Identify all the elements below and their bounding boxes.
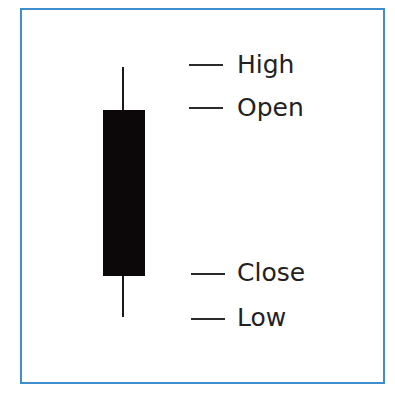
high-tick xyxy=(189,64,223,66)
lower-wick xyxy=(122,276,124,317)
low-tick xyxy=(191,318,225,320)
candle-body xyxy=(103,110,145,276)
low-label: Low xyxy=(237,305,286,330)
close-tick xyxy=(191,273,225,275)
open-tick xyxy=(189,107,223,109)
close-label: Close xyxy=(237,260,305,285)
high-label: High xyxy=(237,52,294,77)
upper-wick xyxy=(122,67,124,110)
open-label: Open xyxy=(237,95,304,120)
